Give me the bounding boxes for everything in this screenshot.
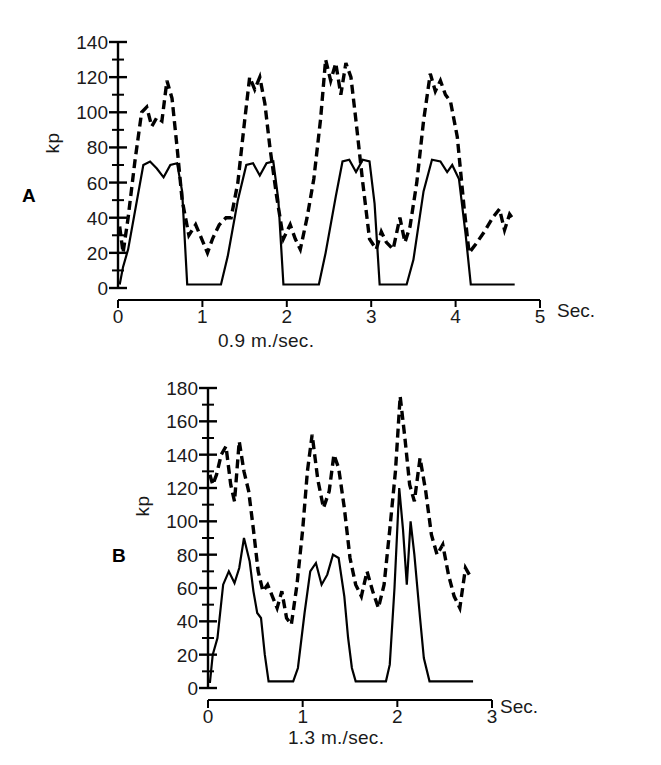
svg-text:1: 1	[297, 706, 308, 727]
svg-text:80: 80	[177, 545, 198, 566]
svg-text:100: 100	[166, 511, 198, 532]
svg-text:40: 40	[177, 611, 198, 632]
svg-text:0: 0	[203, 706, 214, 727]
svg-text:5: 5	[535, 306, 546, 327]
panel-b: B kp 1.3 m./sec. Sec. 020406080100120140…	[0, 355, 661, 765]
svg-text:4: 4	[450, 306, 461, 327]
svg-text:1: 1	[197, 306, 208, 327]
panel-a: A kp 0.9 m./sec. Sec. 020406080100120140…	[0, 0, 661, 370]
svg-text:120: 120	[166, 478, 198, 499]
svg-text:120: 120	[76, 67, 108, 88]
svg-text:2: 2	[392, 706, 403, 727]
panel-b-plot: 0204060801001201401601800123	[0, 355, 661, 765]
svg-text:0: 0	[113, 306, 124, 327]
svg-text:3: 3	[487, 706, 498, 727]
svg-text:20: 20	[87, 243, 108, 264]
svg-text:20: 20	[177, 645, 198, 666]
svg-text:180: 180	[166, 378, 198, 399]
svg-text:3: 3	[366, 306, 377, 327]
svg-text:160: 160	[166, 411, 198, 432]
svg-text:140: 140	[76, 32, 108, 53]
svg-text:100: 100	[76, 102, 108, 123]
svg-text:60: 60	[87, 173, 108, 194]
svg-text:0: 0	[187, 678, 198, 699]
svg-text:140: 140	[166, 445, 198, 466]
svg-text:60: 60	[177, 578, 198, 599]
svg-text:40: 40	[87, 208, 108, 229]
svg-text:0: 0	[97, 278, 108, 299]
svg-text:80: 80	[87, 137, 108, 158]
panel-a-plot: 020406080100120140012345	[0, 0, 661, 370]
svg-text:2: 2	[282, 306, 293, 327]
